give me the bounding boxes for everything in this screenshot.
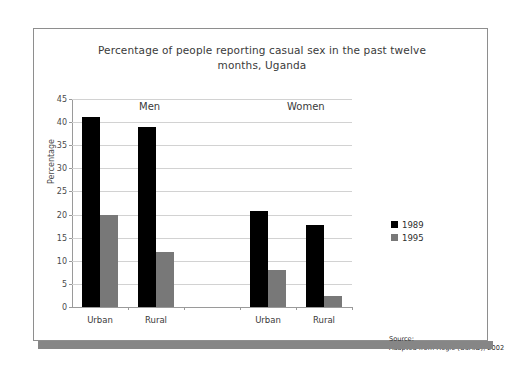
x-tick-label-4: Rural bbox=[296, 315, 352, 325]
bar-1995-1[interactable] bbox=[156, 252, 174, 307]
legend-item-1989[interactable]: 1989 bbox=[391, 218, 424, 231]
y-axis-title: Percentage bbox=[47, 139, 56, 184]
chart-frame: Percentage of people reporting casual se… bbox=[33, 28, 488, 341]
figure-shadow-bar bbox=[38, 341, 493, 349]
x-tick-mark-0 bbox=[128, 307, 129, 310]
x-tick-mark-2 bbox=[240, 307, 241, 310]
bar-1989-3[interactable] bbox=[250, 211, 268, 307]
legend-swatch-1995 bbox=[391, 234, 398, 241]
bar-group-2 bbox=[184, 99, 240, 307]
y-tick-label-25: 25 bbox=[57, 187, 67, 196]
bar-1995-0[interactable] bbox=[100, 215, 118, 307]
bar-group-4: Rural bbox=[296, 99, 352, 307]
bar-1995-4[interactable] bbox=[324, 296, 342, 307]
x-tick-label-0: Urban bbox=[72, 315, 128, 325]
group-label-women: Women bbox=[287, 101, 325, 112]
x-tick-mark-4 bbox=[352, 307, 353, 310]
y-tick-label-40: 40 bbox=[57, 118, 67, 127]
legend-item-1995[interactable]: 1995 bbox=[391, 231, 424, 244]
gridline-0 bbox=[72, 307, 352, 308]
x-tick-mark-1 bbox=[184, 307, 185, 310]
bar-1995-3[interactable] bbox=[268, 270, 286, 307]
y-tick-label-35: 35 bbox=[57, 141, 67, 150]
y-tick-label-10: 10 bbox=[57, 256, 67, 265]
bar-1989-4[interactable] bbox=[306, 225, 324, 307]
y-tick-label-5: 5 bbox=[62, 279, 67, 288]
chart-title-line-1: Percentage of people reporting casual se… bbox=[62, 43, 462, 58]
chart-legend: 19891995 bbox=[391, 218, 424, 244]
y-tick-label-20: 20 bbox=[57, 210, 67, 219]
y-tick-label-15: 15 bbox=[57, 233, 67, 242]
y-tick-label-30: 30 bbox=[57, 164, 67, 173]
y-tick-label-0: 0 bbox=[62, 303, 67, 312]
bar-group-3: Urban bbox=[240, 99, 296, 307]
x-tick-label-1: Rural bbox=[128, 315, 184, 325]
chart-title: Percentage of people reporting casual se… bbox=[62, 43, 462, 73]
plot-area: 051015202530354045 UrbanRuralUrbanRural bbox=[72, 99, 352, 307]
bar-group-1: Rural bbox=[128, 99, 184, 307]
bar-1989-1[interactable] bbox=[138, 127, 156, 307]
bar-1989-0[interactable] bbox=[82, 117, 100, 307]
legend-label-1989: 1989 bbox=[402, 220, 424, 230]
chart-title-line-2: months, Uganda bbox=[62, 58, 462, 73]
x-tick-label-3: Urban bbox=[240, 315, 296, 325]
group-label-men: Men bbox=[139, 101, 160, 112]
y-tick-label-45: 45 bbox=[57, 95, 67, 104]
x-tick-mark-3 bbox=[296, 307, 297, 310]
bar-group-0: Urban bbox=[72, 99, 128, 307]
legend-label-1995: 1995 bbox=[402, 233, 424, 243]
y-tick-mark-0 bbox=[69, 307, 72, 308]
legend-swatch-1989 bbox=[391, 221, 398, 228]
